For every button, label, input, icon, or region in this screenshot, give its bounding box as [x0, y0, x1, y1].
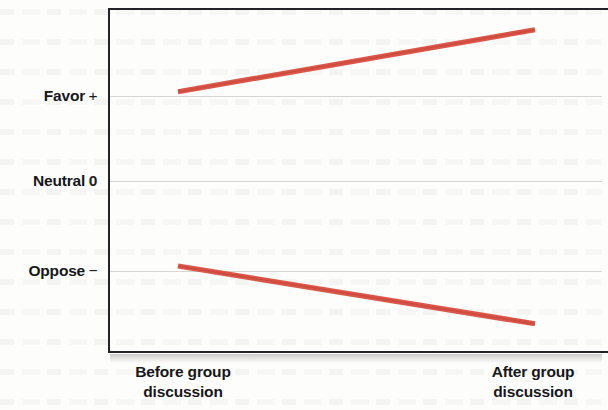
- x-axis-tick-before-group-discussion: Before group discussion: [118, 362, 248, 402]
- series-line-core-0: [178, 30, 535, 92]
- x-axis-tick-after-group-discussion: After group discussion: [468, 362, 598, 402]
- series-line-core-1: [178, 266, 535, 324]
